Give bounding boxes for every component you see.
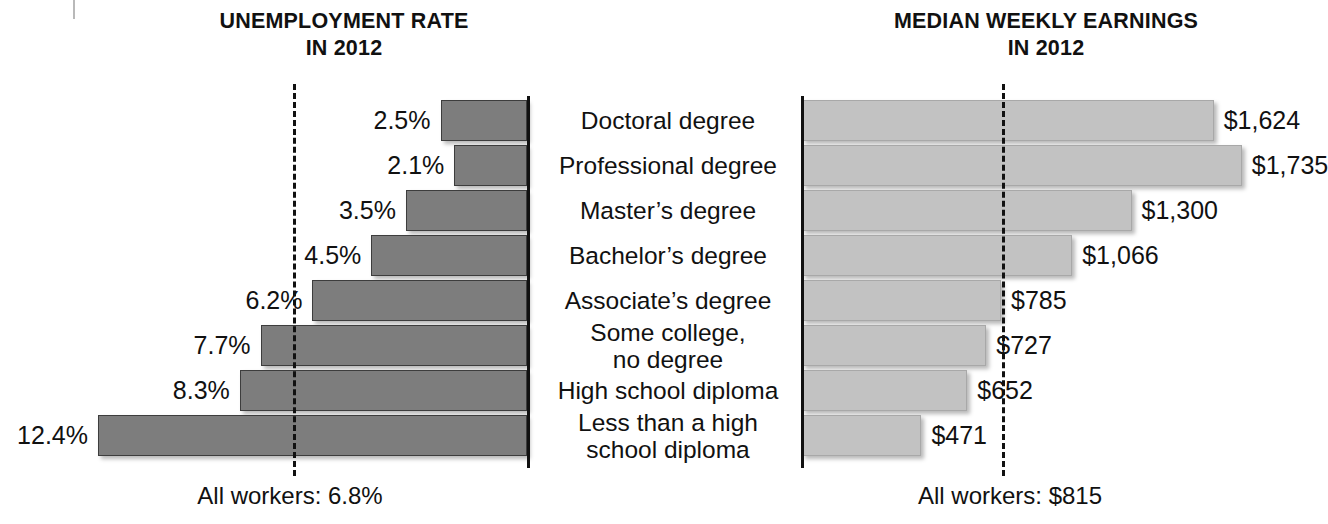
left-bar-row: 4.5% (40, 233, 540, 278)
right-chart-title: MEDIAN WEEKLY EARNINGS IN 2012 (800, 8, 1292, 62)
left-value-label: 2.1% (387, 152, 444, 179)
category-label: Master’s degree (548, 197, 788, 224)
left-bar-row: 12.4% (40, 413, 540, 458)
left-value-label: 12.4% (17, 422, 88, 449)
left-bar (261, 325, 527, 366)
right-chart-title-line1: MEDIAN WEEKLY EARNINGS (894, 9, 1198, 33)
category-label-line1: Professional degree (548, 152, 788, 179)
left-bar-row: 2.5% (40, 98, 540, 143)
left-bar-row: 6.2% (40, 278, 540, 323)
right-chart-title-line2: IN 2012 (800, 35, 1292, 62)
left-bar (240, 370, 527, 411)
scan-artifact-tick (73, 0, 75, 19)
left-value-label: 4.5% (304, 242, 361, 269)
category-label-line1: Bachelor’s degree (548, 242, 788, 269)
category-label: Some college,no degree (548, 319, 788, 373)
left-average-reference-line (293, 84, 296, 476)
right-bar-row: $727 (790, 323, 1290, 368)
right-value-label: $785 (1011, 287, 1067, 314)
right-bar-row: $1,624 (790, 98, 1290, 143)
category-label: Professional degree (548, 152, 788, 179)
left-chart-footer: All workers: 6.8% (140, 482, 440, 510)
right-average-reference-line (1002, 84, 1005, 476)
right-bar (802, 415, 921, 456)
left-bar (371, 235, 527, 276)
right-bar (802, 235, 1072, 276)
category-label-line1: Master’s degree (548, 197, 788, 224)
left-bar-row: 2.1% (40, 143, 540, 188)
right-bar (802, 370, 967, 411)
left-value-label: 8.3% (173, 377, 230, 404)
right-value-label: $1,624 (1224, 107, 1300, 134)
right-value-label: $1,735 (1252, 152, 1328, 179)
category-label: Bachelor’s degree (548, 242, 788, 269)
category-label-column: Doctoral degreeProfessional degreeMaster… (548, 96, 788, 468)
left-bar-row: 3.5% (40, 188, 540, 233)
left-bar (454, 145, 527, 186)
right-value-label: $652 (977, 377, 1033, 404)
left-value-label: 7.7% (194, 332, 251, 359)
category-label-line2: no degree (548, 346, 788, 373)
category-label-line1: High school diploma (548, 377, 788, 404)
left-chart-title-line2: IN 2012 (142, 35, 546, 62)
category-label-line1: Doctoral degree (548, 107, 788, 134)
left-bar (406, 190, 527, 231)
right-bar-rows: $1,624$1,735$1,300$1,066$785$727$652$471 (790, 96, 1290, 468)
right-chart-footer: All workers: $815 (860, 482, 1160, 510)
right-axis-line (801, 96, 804, 468)
right-value-label: $471 (931, 422, 987, 449)
left-bar-row: 7.7% (40, 323, 540, 368)
category-label-line2: school diploma (548, 436, 788, 463)
right-bar-row: $1,300 (790, 188, 1290, 233)
right-bar (802, 145, 1242, 186)
left-chart-title-line1: UNEMPLOYMENT RATE (219, 9, 468, 33)
right-bar-row: $1,735 (790, 143, 1290, 188)
right-plot-area: $1,624$1,735$1,300$1,066$785$727$652$471 (790, 96, 1290, 468)
left-value-label: 3.5% (339, 197, 396, 224)
category-label-line1: Some college, (548, 319, 788, 346)
left-value-label: 2.5% (374, 107, 431, 134)
right-bar (802, 325, 986, 366)
category-label: High school diploma (548, 377, 788, 404)
left-bar (312, 280, 527, 321)
right-bar-row: $785 (790, 278, 1290, 323)
left-bar-rows: 2.5%2.1%3.5%4.5%6.2%7.7%8.3%12.4% (40, 96, 540, 468)
right-bar (802, 280, 1001, 321)
category-label-line1: Associate’s degree (548, 287, 788, 314)
left-axis-line (527, 96, 530, 468)
category-label: Doctoral degree (548, 107, 788, 134)
right-bar-row: $471 (790, 413, 1290, 458)
left-bar-row: 8.3% (40, 368, 540, 413)
right-bar-row: $652 (790, 368, 1290, 413)
left-bar (441, 100, 528, 141)
category-label: Associate’s degree (548, 287, 788, 314)
right-value-label: $1,300 (1142, 197, 1218, 224)
left-plot-area: 2.5%2.1%3.5%4.5%6.2%7.7%8.3%12.4% (40, 96, 540, 468)
category-label: Less than a highschool diploma (548, 409, 788, 463)
category-label-line1: Less than a high (548, 409, 788, 436)
left-chart-title: UNEMPLOYMENT RATE IN 2012 (142, 8, 546, 62)
right-bar (802, 100, 1214, 141)
right-bar (802, 190, 1132, 231)
right-value-label: $1,066 (1082, 242, 1158, 269)
right-bar-row: $1,066 (790, 233, 1290, 278)
left-bar (98, 415, 527, 456)
